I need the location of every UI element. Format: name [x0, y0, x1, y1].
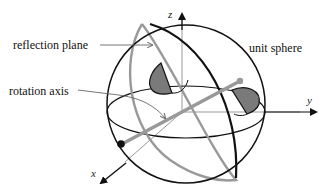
sphere-diagram: reflection plane rotation axis unit sphe…	[0, 0, 324, 194]
x-axis-label: x	[90, 167, 96, 179]
x-axis-arrow	[101, 163, 126, 183]
rotation-axis-end-top	[237, 78, 243, 84]
shaded-shape-right	[232, 88, 259, 114]
z-axis-label: z	[167, 8, 173, 20]
unit-sphere-label: unit sphere	[249, 41, 302, 55]
reflection-plane-label: reflection plane	[13, 38, 88, 52]
rotation-axis-label: rotation axis	[9, 84, 69, 98]
rotation-arc-right	[234, 114, 247, 116]
reflection-plane-circle	[130, 24, 236, 180]
y-axis-label: y	[306, 94, 312, 106]
rotation-axis-leader	[78, 90, 165, 118]
